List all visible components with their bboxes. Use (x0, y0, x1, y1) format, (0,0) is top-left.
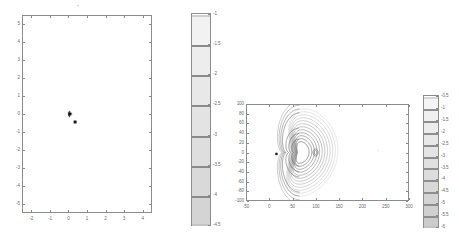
x-tick-label: 0 (67, 217, 69, 222)
colorbar-band (424, 204, 438, 206)
x-tick-mark-top (246, 105, 247, 107)
y-tick-mark-right (149, 186, 151, 187)
y-tick-mark-right (149, 24, 151, 25)
y-tick-label: -60 (228, 179, 244, 184)
y-tick-mark-right (406, 191, 408, 192)
colorbar-tick-mark (436, 179, 438, 180)
y-tick-mark-right (406, 123, 408, 124)
colorbar-band (192, 105, 210, 107)
y-tick-mark-right (406, 114, 408, 115)
y-tick-mark-right (149, 114, 151, 115)
colorbar-tick-mark (436, 96, 438, 97)
colorbar-tick-label: -3.5 (213, 162, 221, 167)
y-tick-label: -40 (228, 170, 244, 175)
contour-saddle-loop (313, 149, 318, 156)
y-tick-mark-right (149, 42, 151, 43)
x-tick-mark-top (386, 105, 387, 107)
y-tick-label: 0 (228, 150, 244, 155)
x-tick-mark (31, 210, 32, 212)
y-tick-mark-right (149, 150, 151, 151)
y-tick-mark-right (406, 104, 408, 105)
colorbar-cell (192, 137, 210, 166)
x-tick-mark-top (316, 105, 317, 107)
colorbar-tick-label: -1.5 (213, 42, 221, 47)
y-tick-mark (23, 186, 25, 187)
colorbar-tick-label: -1 (213, 12, 217, 17)
y-tick-label: 60 (228, 121, 244, 126)
colorbar-tick-label: -5.5 (441, 213, 449, 218)
left-contour-svg (23, 16, 151, 212)
y-tick-mark (23, 42, 25, 43)
right-plot-axes (246, 104, 409, 201)
colorbar-tick-label: -2 (441, 129, 445, 134)
colorbar-band (424, 121, 438, 123)
x-tick-label: 4 (141, 217, 143, 222)
y-tick-label: -4 (4, 184, 20, 189)
x-tick-mark-top (143, 16, 144, 18)
y-tick-mark (247, 191, 249, 192)
colorbar-tick-label: -1 (441, 106, 445, 111)
y-tick-mark (247, 162, 249, 163)
colorbar-tick-mark (436, 168, 438, 169)
x-tick-mark (409, 198, 410, 200)
colorbar-tick-mark (436, 108, 438, 109)
x-tick-label: 150 (335, 205, 342, 210)
x-tick-label: -2 (29, 217, 33, 222)
left-contour-panel: 543210-1-2-3-4-5 -2-101234 (0, 0, 190, 242)
x-tick-mark-top (31, 16, 32, 18)
x-tick-label: 1 (86, 217, 88, 222)
colorbar-tick-mark (436, 227, 438, 228)
colorbar-tick-label: -2.5 (213, 102, 221, 107)
colorbar-tick-label: -1.5 (441, 118, 449, 123)
colorbar-tick-mark (208, 165, 210, 166)
colorbar-tick-mark (208, 135, 210, 136)
y-tick-mark (23, 168, 25, 169)
y-tick-mark-right (406, 153, 408, 154)
colorbar-band (424, 180, 438, 182)
colorbar-band (424, 168, 438, 170)
right-colorbar (423, 95, 439, 228)
y-tick-mark (23, 114, 25, 115)
colorbar-band (192, 15, 210, 17)
y-tick-label: -100 (228, 199, 244, 204)
x-tick-mark (106, 210, 107, 212)
colorbar-tick-label: -4.5 (441, 189, 449, 194)
colorbar-tick-label: -6 (441, 225, 445, 230)
colorbar-cell (192, 197, 210, 226)
y-tick-mark-right (406, 162, 408, 163)
right-colorbar-panel: -0.5-1-1.5-2-2.5-3-3.5-4-4.5-5-5.5-6 (418, 0, 459, 242)
colorbar-tick-mark (208, 74, 210, 75)
colorbar-tick-mark (208, 195, 210, 196)
colorbar-tick-mark (208, 104, 210, 105)
y-tick-label: 1 (4, 94, 20, 99)
y-tick-label: 3 (4, 58, 20, 63)
y-tick-label: -20 (228, 160, 244, 165)
colorbar-band (424, 97, 438, 99)
y-tick-mark (247, 201, 249, 202)
colorbar-band (424, 145, 438, 147)
colorbar-tick-label: -3 (213, 132, 217, 137)
colorbar-band (192, 166, 210, 168)
y-tick-mark (247, 153, 249, 154)
x-tick-mark-top (68, 16, 69, 18)
x-tick-label: 50 (290, 205, 295, 210)
x-tick-mark-top (409, 105, 410, 107)
x-tick-label: -1 (48, 217, 52, 222)
y-tick-mark (247, 104, 249, 105)
y-tick-mark (23, 78, 25, 79)
artifact-speck (378, 150, 379, 151)
colorbar-tick-label: -2 (213, 72, 217, 77)
figure-canvas: 543210-1-2-3-4-5 -2-101234 -1-1.5-2-2.5-… (0, 0, 459, 242)
y-tick-label: 80 (228, 111, 244, 116)
x-tick-label: 2 (104, 217, 106, 222)
x-tick-label: 0 (268, 205, 270, 210)
x-tick-label: 250 (382, 205, 389, 210)
x-tick-mark-top (339, 105, 340, 107)
y-tick-mark (23, 60, 25, 61)
colorbar-tick-label: -5 (441, 201, 445, 206)
colorbar-tick-mark (436, 215, 438, 216)
colorbar-band (424, 109, 438, 111)
y-tick-label: -2 (4, 148, 20, 153)
y-tick-label: -5 (4, 202, 20, 207)
colorbar-tick-label: -0.5 (441, 94, 449, 99)
